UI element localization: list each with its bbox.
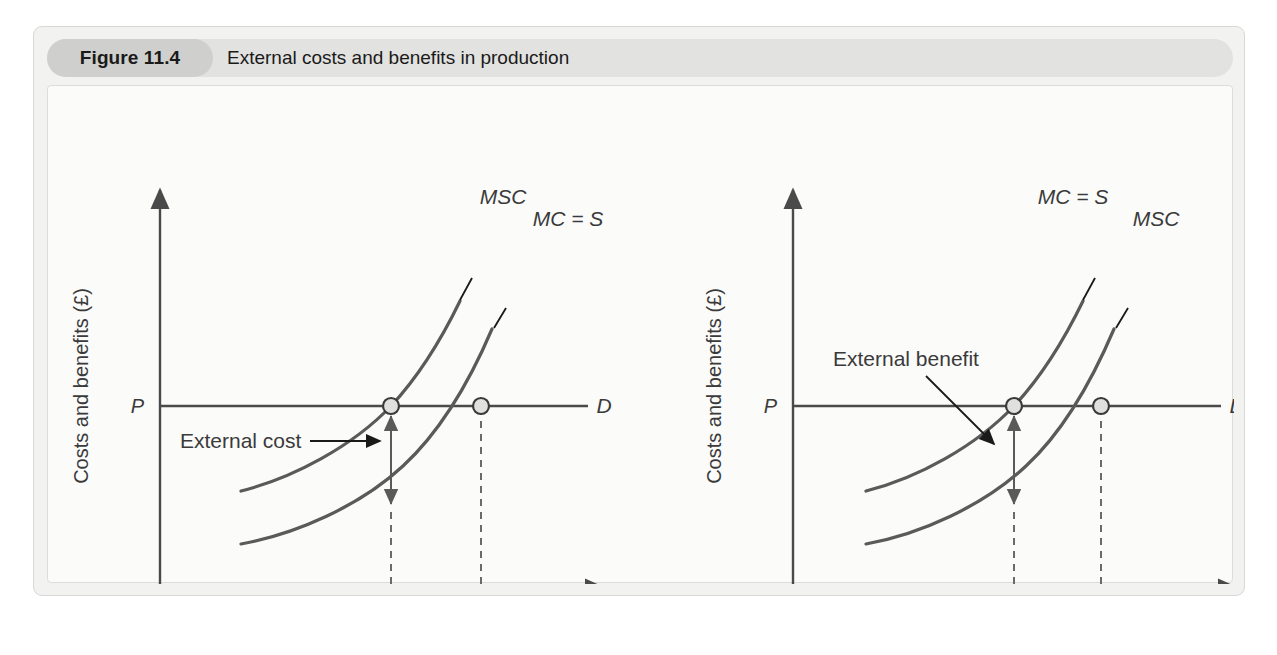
demand-label: D <box>1229 394 1234 417</box>
curve-msc <box>241 301 460 491</box>
y-axis-label: Costs and benefits (£) <box>70 288 92 484</box>
curve-label-msc: MSC <box>1133 207 1181 230</box>
equilibrium-marker-q2 <box>1093 398 1109 414</box>
equilibrium-marker-q1 <box>1006 398 1022 414</box>
y-axis-label: Costs and benefits (£) <box>703 288 725 484</box>
figure-number-label: Figure 11.4 <box>80 47 180 69</box>
chart-panel-b: MC = S MSC D P O External benefit Q1 Q2 <box>641 86 1234 584</box>
figure-header: Figure 11.4 External costs and benefits … <box>47 39 1233 77</box>
price-label: P <box>131 395 145 417</box>
figure-body: MSC MC = S D P O External cost Q2 Q1 <box>47 85 1233 583</box>
figure-number-badge: Figure 11.4 <box>47 39 213 77</box>
external-benefit-pointer <box>926 376 994 444</box>
equilibrium-marker-q2 <box>383 398 399 414</box>
curve-label-msc: MSC <box>480 185 528 208</box>
curve-label-mc-s: MC = S <box>1038 185 1109 208</box>
demand-label: D <box>596 394 611 417</box>
figure-frame: Figure 11.4 External costs and benefits … <box>33 26 1245 596</box>
chart-panel-a: MSC MC = S D P O External cost Q2 Q1 <box>48 86 641 584</box>
price-label: P <box>764 395 778 417</box>
curve-msc-leader <box>460 278 472 300</box>
figure-title: External costs and benefits in productio… <box>227 39 569 77</box>
curve-msc-leader <box>1116 308 1128 328</box>
curve-mc-s <box>866 301 1083 491</box>
external-cost-annotation: External cost <box>180 429 302 452</box>
curve-mc-s-leader <box>1083 278 1095 300</box>
curve-label-mc-s: MC = S <box>533 207 604 230</box>
curve-mc-s-leader <box>494 308 506 328</box>
external-benefit-annotation: External benefit <box>833 347 979 370</box>
equilibrium-marker-q1 <box>473 398 489 414</box>
